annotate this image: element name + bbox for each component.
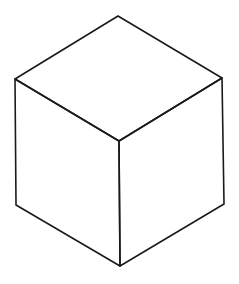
cube-top-face [15,16,222,141]
cube-diagram-canvas [0,0,239,284]
cube-drawing [0,0,239,284]
cube-right-face [119,78,224,266]
cube-left-face [15,79,120,266]
